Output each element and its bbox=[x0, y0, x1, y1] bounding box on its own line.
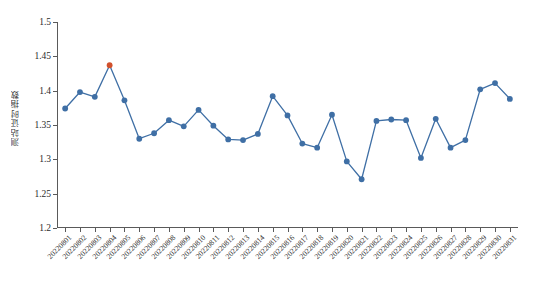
data-point[interactable] bbox=[285, 112, 291, 118]
data-point[interactable] bbox=[136, 136, 142, 142]
data-point[interactable] bbox=[210, 123, 216, 129]
y-tick-label: 1.45 bbox=[34, 51, 51, 61]
data-point[interactable] bbox=[492, 80, 498, 86]
data-point[interactable] bbox=[403, 117, 409, 123]
plot-area: 1.21.251.31.351.41.451.5 bbox=[57, 22, 518, 228]
y-tick-label: 1.5 bbox=[39, 17, 51, 27]
data-point[interactable] bbox=[433, 116, 439, 122]
y-tick-label: 1.4 bbox=[39, 86, 51, 96]
data-point[interactable] bbox=[299, 141, 305, 147]
data-point[interactable] bbox=[374, 118, 380, 124]
y-tick-label: 1.3 bbox=[39, 154, 51, 164]
data-point[interactable] bbox=[77, 89, 83, 95]
y-axis-title: 测站证时指数 bbox=[8, 58, 24, 178]
data-point[interactable] bbox=[166, 117, 172, 123]
data-point[interactable] bbox=[314, 145, 320, 151]
chart-figure: 测站证时指数 1.21.251.31.351.41.451.5 20220801… bbox=[0, 0, 552, 284]
data-point[interactable] bbox=[62, 106, 68, 112]
y-tick bbox=[53, 228, 57, 229]
data-point[interactable] bbox=[240, 137, 246, 143]
data-point[interactable] bbox=[344, 158, 350, 164]
data-point[interactable] bbox=[418, 155, 424, 161]
series-polyline bbox=[65, 65, 510, 179]
data-point[interactable] bbox=[359, 176, 365, 182]
x-axis-tick-labels: 2022080120220802202208032022080420220805… bbox=[57, 230, 518, 284]
data-point[interactable] bbox=[92, 94, 98, 100]
data-series-line bbox=[57, 22, 518, 228]
data-point[interactable] bbox=[122, 97, 128, 103]
data-point[interactable] bbox=[448, 145, 454, 151]
data-point[interactable] bbox=[181, 123, 187, 129]
data-point[interactable] bbox=[507, 96, 513, 102]
data-point[interactable] bbox=[151, 130, 157, 136]
data-point[interactable] bbox=[462, 137, 468, 143]
data-point[interactable] bbox=[270, 93, 276, 99]
y-tick-label: 1.35 bbox=[34, 120, 51, 130]
data-point[interactable] bbox=[388, 117, 394, 123]
data-point[interactable] bbox=[329, 112, 335, 118]
data-point[interactable] bbox=[225, 137, 231, 143]
y-tick-label: 1.2 bbox=[39, 223, 51, 233]
data-point-highlighted[interactable] bbox=[107, 62, 113, 68]
data-point[interactable] bbox=[255, 131, 261, 137]
data-point[interactable] bbox=[477, 86, 483, 92]
y-tick-label: 1.25 bbox=[34, 189, 51, 199]
data-point[interactable] bbox=[196, 107, 202, 113]
